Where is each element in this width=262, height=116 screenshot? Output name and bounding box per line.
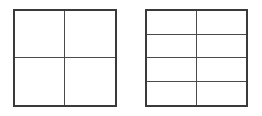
right-square-cell-r2c1 (147, 35, 197, 59)
left-square-cell-r2c2 (65, 58, 115, 105)
figure-canvas (0, 0, 262, 116)
right-square (145, 9, 248, 107)
right-square-cell-r4c2 (197, 82, 247, 106)
right-square-cell-r3c2 (197, 58, 247, 82)
right-square-cell-r3c1 (147, 58, 197, 82)
left-square-cell-r1c2 (65, 11, 115, 58)
right-square-cell-r4c1 (147, 82, 197, 106)
left-square-cell-r1c1 (15, 11, 65, 58)
right-square-cell-r1c1 (147, 11, 197, 35)
right-square-cell-r2c2 (197, 35, 247, 59)
right-square-cell-r1c2 (197, 11, 247, 35)
left-square (13, 9, 117, 107)
left-square-cell-r2c1 (15, 58, 65, 105)
